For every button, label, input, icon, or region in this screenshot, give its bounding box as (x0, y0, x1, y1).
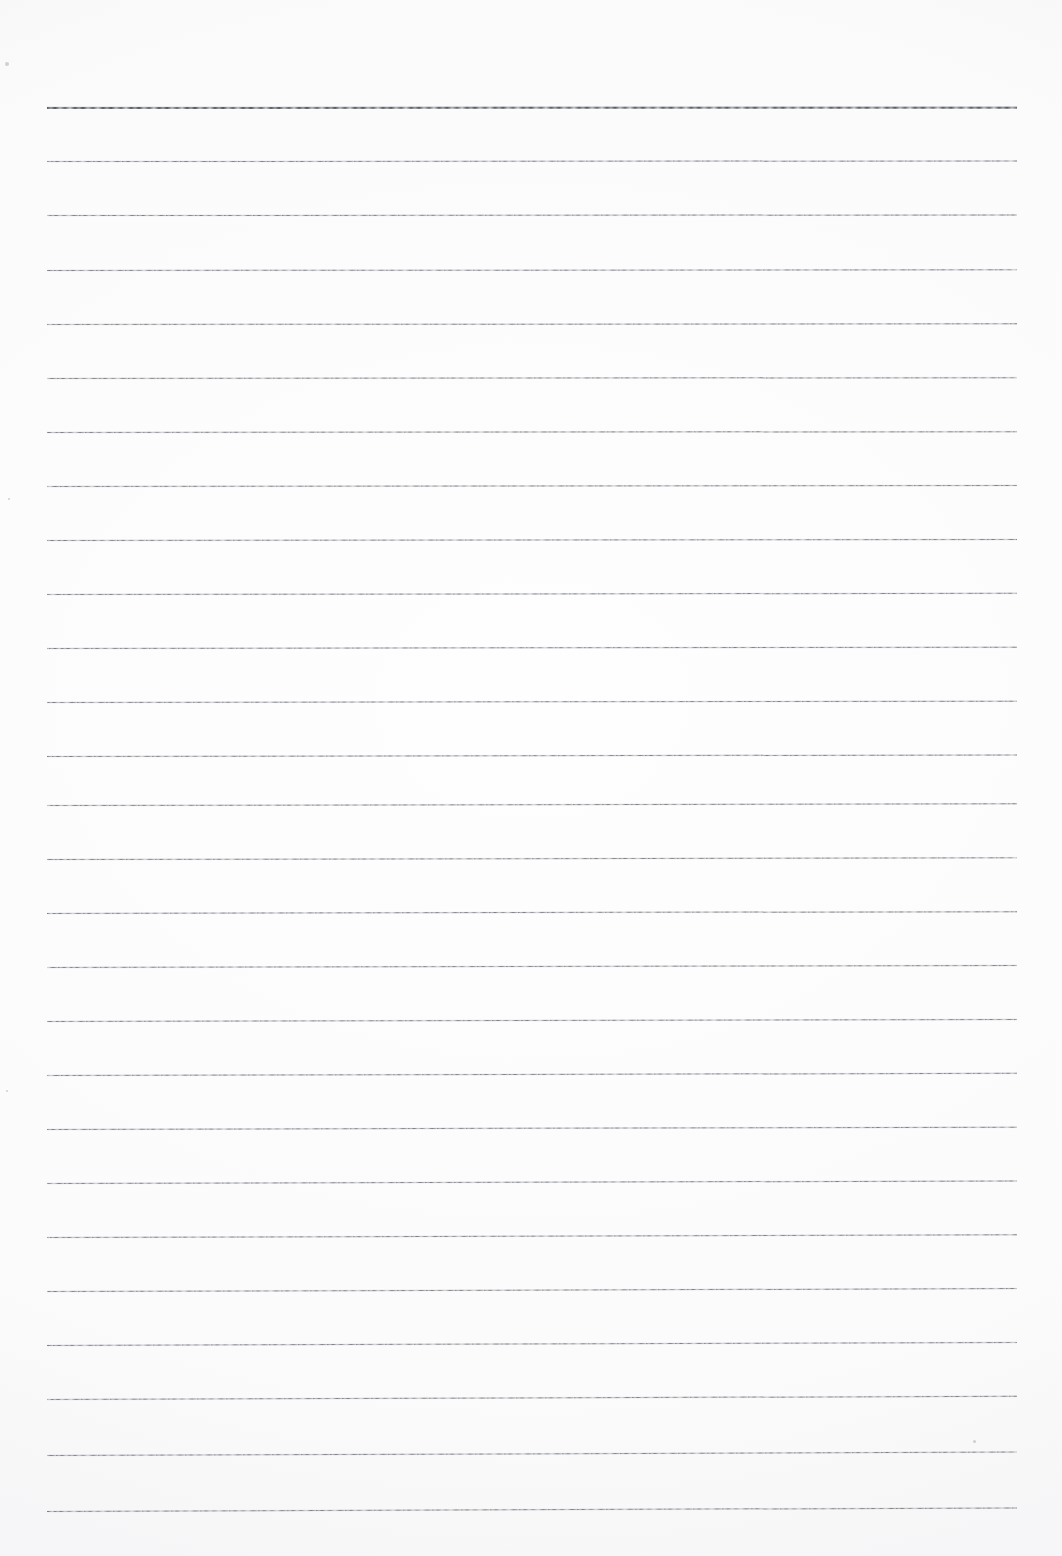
rule-line-stroke (47, 1288, 1017, 1292)
scanned-page (0, 0, 1062, 1556)
rule-line-stroke (47, 857, 1017, 860)
rule-line-halo (47, 1395, 1017, 1401)
rule-line-stroke (47, 754, 1017, 757)
rule-line (47, 1233, 1017, 1239)
rule-line (47, 1018, 1017, 1023)
page-text-content (47, 107, 1017, 108)
rule-line-stroke (47, 485, 1017, 487)
rule-line-stroke (47, 431, 1017, 433)
rule-line-stroke (47, 160, 1017, 162)
rule-line (47, 268, 1017, 272)
rule-line-stroke (47, 593, 1017, 595)
rule-line-stroke (47, 647, 1017, 649)
rule-line (47, 430, 1017, 434)
rule-line-stroke (47, 803, 1017, 806)
rule-line-halo (47, 1287, 1017, 1293)
rule-line (47, 646, 1017, 650)
rule-line-stroke (47, 1073, 1017, 1076)
rule-line (47, 964, 1017, 969)
rule-line-halo (47, 964, 1017, 969)
rule-line-halo (47, 159, 1017, 163)
rule-line-halo (47, 268, 1017, 272)
rule-line-stroke (47, 323, 1017, 325)
rule-line-halo (47, 484, 1017, 488)
rule-line-halo (47, 1451, 1017, 1457)
rule-line (47, 1126, 1017, 1131)
rule-line-stroke (47, 539, 1017, 541)
rule-line-halo (47, 1018, 1017, 1023)
rule-line-halo (47, 753, 1017, 758)
rule-line-stroke (47, 1019, 1017, 1022)
rule-line-stroke (47, 269, 1017, 271)
rule-line-halo (47, 538, 1017, 542)
rule-line-halo (47, 646, 1017, 650)
rule-line-stroke (47, 701, 1017, 703)
rule-line (47, 856, 1017, 861)
rule-line-halo (47, 1179, 1017, 1185)
rule-line (47, 1451, 1017, 1457)
rule-line-stroke (47, 1507, 1017, 1512)
rule-line-halo (47, 322, 1017, 326)
rule-line-halo (47, 1233, 1017, 1239)
rule-line (47, 802, 1017, 807)
rule-line-halo (47, 1072, 1017, 1077)
rule-line (47, 910, 1017, 915)
rule-line-stroke (47, 214, 1017, 216)
rule-line-stroke (47, 1180, 1017, 1184)
rule-line (47, 753, 1017, 758)
rule-line-group (0, 0, 1062, 1556)
rule-line (47, 1506, 1017, 1513)
rule-line (47, 700, 1017, 704)
rule-line (47, 1341, 1017, 1347)
rule-line (47, 1395, 1017, 1401)
rule-line-halo (47, 592, 1017, 596)
rule-line-stroke (47, 1396, 1017, 1400)
rule-line-stroke (47, 965, 1017, 968)
rule-line-halo (47, 700, 1017, 704)
rule-line-halo (47, 856, 1017, 861)
rule-line-stroke (47, 1342, 1017, 1346)
rule-line-stroke (47, 377, 1017, 379)
rule-line-halo (47, 1126, 1017, 1131)
rule-line (47, 1179, 1017, 1185)
rule-line-halo (47, 1506, 1017, 1513)
rule-line-halo (47, 376, 1017, 380)
rule-line (47, 1072, 1017, 1077)
rule-line (47, 213, 1017, 217)
rule-line (47, 484, 1017, 488)
rule-line-halo (47, 1341, 1017, 1347)
rule-line-halo (47, 802, 1017, 807)
rule-line (47, 1287, 1017, 1293)
rule-line-stroke (47, 911, 1017, 914)
rule-line (47, 376, 1017, 380)
rule-line (47, 159, 1017, 163)
rule-line (47, 592, 1017, 596)
rule-line-halo (47, 213, 1017, 217)
rule-line (47, 322, 1017, 326)
rule-line-stroke (47, 1452, 1017, 1456)
rule-line (47, 538, 1017, 542)
rule-line-stroke (47, 1234, 1017, 1238)
rule-line-halo (47, 910, 1017, 915)
rule-line-halo (47, 430, 1017, 434)
rule-line-stroke (47, 1127, 1017, 1130)
